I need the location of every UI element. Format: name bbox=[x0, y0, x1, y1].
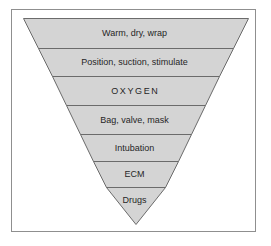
pyramid-band-7 bbox=[107, 188, 166, 225]
figure-root: Warm, dry, wrap Position, suction, stimu… bbox=[0, 0, 271, 246]
pyramid-shape bbox=[12, 10, 257, 233]
pyramid-band-1 bbox=[24, 19, 249, 49]
pyramid-band-2 bbox=[39, 49, 234, 77]
pyramid-band-3 bbox=[53, 77, 220, 106]
pyramid-band-4 bbox=[67, 106, 206, 135]
figure-frame: Warm, dry, wrap Position, suction, stimu… bbox=[11, 9, 256, 232]
pyramid-band-5 bbox=[81, 135, 192, 162]
pyramid-band-6 bbox=[94, 162, 179, 188]
inverted-pyramid-diagram: Warm, dry, wrap Position, suction, stimu… bbox=[12, 10, 257, 233]
